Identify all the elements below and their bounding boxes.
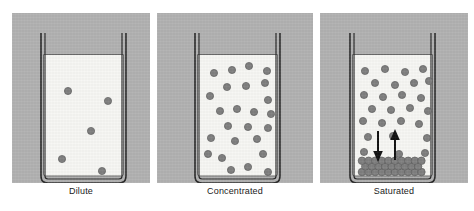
solute-particle xyxy=(415,120,422,127)
solute-particle xyxy=(244,163,251,170)
solute-particle xyxy=(264,96,271,103)
solute-particle xyxy=(361,67,368,74)
solute-particle xyxy=(261,79,268,86)
caption-concentrated: Concentrated xyxy=(157,186,313,196)
solute-particle xyxy=(244,123,251,130)
undissolved-crystal-bed xyxy=(358,157,425,176)
caption-saturated: Saturated xyxy=(320,186,468,196)
solute-particle xyxy=(267,110,274,117)
solute-particle xyxy=(224,122,231,129)
liquid-fill xyxy=(44,55,124,177)
solute-particle xyxy=(210,69,217,76)
solute-particle xyxy=(87,127,94,134)
solute-particle xyxy=(360,91,367,98)
solute-particle xyxy=(368,105,375,112)
solution-concentration-figure: Dilute Concentrated Saturated xyxy=(0,0,474,211)
solute-particle xyxy=(250,108,257,115)
solute-particle xyxy=(391,81,398,88)
solute-particle xyxy=(264,168,271,175)
solute-particle xyxy=(204,150,211,157)
solute-particle xyxy=(379,93,386,100)
solute-particle xyxy=(228,66,235,73)
solute-particle xyxy=(423,134,430,141)
solute-particle xyxy=(360,148,367,155)
solute-particle xyxy=(425,77,432,84)
solute-particle xyxy=(216,107,223,114)
beaker-concentrated xyxy=(157,13,313,183)
panel-concentrated xyxy=(157,13,313,183)
solute-particle xyxy=(419,65,426,72)
solute-particle xyxy=(417,94,424,101)
panel-dilute xyxy=(12,13,150,183)
solute-particle xyxy=(64,87,71,94)
solute-particle xyxy=(206,92,213,99)
solute-particle xyxy=(259,150,266,157)
solute-particle xyxy=(233,105,240,112)
solute-particle xyxy=(264,124,271,131)
solute-particle xyxy=(58,155,65,162)
solute-particle xyxy=(378,119,385,126)
solute-particle xyxy=(398,91,405,98)
solute-particle xyxy=(397,117,404,124)
solute-particle xyxy=(410,79,417,86)
panel-saturated xyxy=(320,13,468,183)
solute-particle xyxy=(387,106,394,113)
solute-particle xyxy=(406,104,413,111)
solute-particle xyxy=(359,117,366,124)
solute-particle xyxy=(227,166,234,173)
solute-particle xyxy=(395,150,402,157)
solute-particle xyxy=(263,67,270,74)
solute-particle xyxy=(245,62,252,69)
solute-particle xyxy=(242,82,249,89)
solute-particle xyxy=(104,97,111,104)
solute-particle xyxy=(253,135,260,142)
solute-particle xyxy=(381,65,388,72)
crystal-particle xyxy=(418,157,426,165)
caption-dilute: Dilute xyxy=(12,186,150,196)
solute-particle xyxy=(371,79,378,86)
solute-particle xyxy=(364,133,371,140)
solute-particle xyxy=(223,83,230,90)
solute-particle xyxy=(421,149,428,156)
beaker-dilute xyxy=(12,13,150,183)
solute-particle xyxy=(207,134,214,141)
solute-particle xyxy=(98,167,105,174)
solute-particle xyxy=(424,107,431,114)
beaker-saturated xyxy=(320,13,468,183)
solute-particle xyxy=(231,137,238,144)
solute-particle xyxy=(401,68,408,75)
solute-particle xyxy=(218,154,225,161)
